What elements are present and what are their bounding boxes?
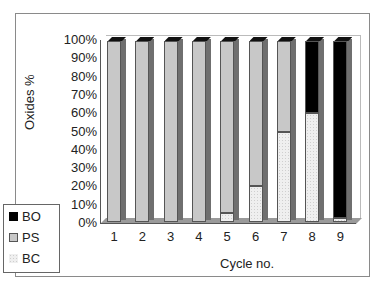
bar-segment-bc	[305, 113, 319, 222]
bar-segment-bc	[220, 213, 234, 222]
y-tick-label: 80%	[71, 69, 97, 84]
bar-cycle-6	[249, 41, 263, 222]
x-axis-label: Cycle no.	[220, 256, 274, 271]
bar-side	[178, 39, 183, 220]
x-tick-label: 3	[161, 229, 181, 244]
y-axis-line	[100, 40, 101, 224]
x-tick-label: 2	[132, 229, 152, 244]
x-tick-label: 4	[189, 229, 209, 244]
bar-cycle-7	[277, 41, 291, 222]
y-tick-label: 70%	[71, 87, 97, 102]
x-tick-label: 9	[330, 229, 350, 244]
legend-item-bc: BC	[9, 251, 40, 266]
bar-segment-bo	[333, 41, 347, 218]
legend: BO PS BC	[3, 204, 60, 273]
bar-segment-ps	[277, 41, 291, 132]
legend-label: PS	[22, 230, 39, 245]
bar-segment-ps	[249, 41, 263, 186]
legend-item-bo: BO	[9, 209, 41, 224]
y-tick-label: 100%	[64, 32, 97, 47]
bar-segment-bc	[333, 218, 347, 222]
y-tick-label: 0%	[78, 215, 97, 230]
bar-segment-ps	[164, 41, 178, 222]
y-tick-label: 20%	[71, 178, 97, 193]
plot-area	[100, 40, 355, 223]
y-tick-label: 90%	[71, 50, 97, 65]
x-tick-label: 8	[302, 229, 322, 244]
y-tick-label: 40%	[71, 142, 97, 157]
legend-swatch-bo	[9, 212, 18, 221]
bar-side	[319, 39, 324, 220]
bar-cycle-4	[192, 41, 206, 222]
bar-side	[291, 39, 296, 220]
bar-segment-ps	[220, 41, 234, 213]
bar-segment-ps	[192, 41, 206, 222]
x-tick-label: 5	[217, 229, 237, 244]
y-tick-label: 50%	[71, 124, 97, 139]
bar-side	[263, 39, 268, 220]
legend-swatch-bc	[9, 254, 18, 263]
bar-side	[234, 39, 239, 220]
bar-cycle-1	[107, 41, 121, 222]
y-tick-label: 30%	[71, 160, 97, 175]
legend-item-ps: PS	[9, 230, 39, 245]
bar-side	[206, 39, 211, 220]
y-axis-label: Oxides %	[22, 74, 37, 130]
bar-side	[149, 39, 154, 220]
bar-cycle-2	[135, 41, 149, 222]
bar-cycle-8	[305, 41, 319, 222]
legend-label: BO	[22, 209, 41, 224]
x-axis-line	[100, 223, 356, 224]
bar-cycle-9	[333, 41, 347, 222]
bar-cycle-5	[220, 41, 234, 222]
bar-segment-ps	[107, 41, 121, 222]
bar-side	[347, 39, 352, 220]
y-tick-label: 60%	[71, 105, 97, 120]
bar-segment-bo	[305, 41, 319, 113]
x-tick-label: 1	[104, 229, 124, 244]
y-tick-label: 10%	[71, 197, 97, 212]
bar-segment-bc	[249, 186, 263, 222]
legend-label: BC	[22, 251, 40, 266]
legend-swatch-ps	[9, 233, 18, 242]
bar-cycle-3	[164, 41, 178, 222]
x-tick-label: 6	[246, 229, 266, 244]
bar-segment-ps	[135, 41, 149, 222]
bar-segment-bc	[277, 132, 291, 223]
bar-side	[121, 39, 126, 220]
x-tick-label: 7	[274, 229, 294, 244]
